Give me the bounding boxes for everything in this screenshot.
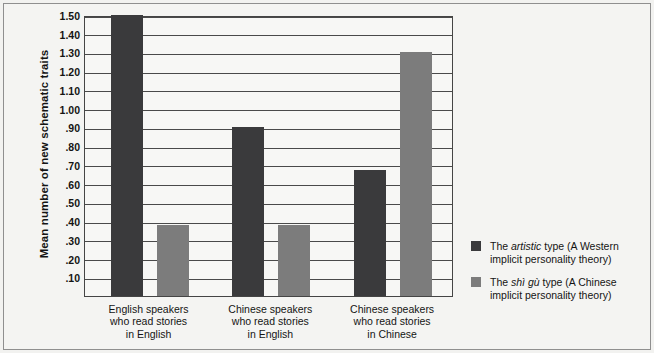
legend-swatch-icon (471, 277, 481, 287)
y-axis-tick-label: .10 (40, 272, 80, 284)
y-axis-tick-label: 1.50 (40, 10, 80, 22)
plot-area (84, 16, 453, 297)
y-axis-tick-label: 1.20 (40, 66, 80, 78)
y-axis-tick-label: 1.00 (40, 104, 80, 116)
y-axis-tick-label: 1.30 (40, 47, 80, 59)
y-axis-tick-label: .40 (40, 216, 80, 228)
category-label-line: Chinese speakers (210, 303, 330, 315)
bar (157, 225, 189, 296)
category-label-line: in English (210, 328, 330, 340)
category-label-line: in English (89, 328, 209, 340)
category-label-line: who read stories (332, 315, 452, 327)
category-label-line: English speakers (89, 303, 209, 315)
legend-swatch-icon (471, 241, 481, 251)
y-axis-tick-labels: 1.501.401.301.201.101.00.90.80.70.60.50.… (38, 16, 80, 297)
legend-item[interactable]: The shì gù type (A Chinese implicit pers… (471, 276, 647, 301)
chart-legend: The artistic type (A Western implicit pe… (471, 240, 647, 312)
y-axis-tick-label: .50 (40, 197, 80, 209)
chart-figure: Mean number of new schematic traits 1.50… (0, 0, 654, 353)
bar (232, 127, 264, 296)
legend-label: The artistic type (A Western implicit pe… (490, 240, 619, 265)
bar (354, 170, 386, 296)
y-axis-tick-label: 1.10 (40, 85, 80, 97)
category-label: Chinese speakerswho read storiesin Chine… (332, 303, 452, 340)
y-axis-tick-label: .90 (40, 122, 80, 134)
category-label-line: Chinese speakers (332, 303, 452, 315)
bar (400, 52, 432, 296)
category-label: Chinese speakerswho read storiesin Engli… (210, 303, 330, 340)
bar (278, 225, 310, 296)
category-label-line: who read stories (89, 315, 209, 327)
y-axis-tick-label: .70 (40, 160, 80, 172)
y-axis-tick-label: .60 (40, 179, 80, 191)
legend-label: The shì gù type (A Chinese implicit pers… (490, 276, 617, 301)
y-axis-tick-label: .30 (40, 235, 80, 247)
legend-item[interactable]: The artistic type (A Western implicit pe… (471, 240, 647, 265)
category-label: English speakerswho read storiesin Engli… (89, 303, 209, 340)
y-axis-tick-label: .80 (40, 141, 80, 153)
category-label-line: who read stories (210, 315, 330, 327)
y-axis-tick-label: 1.40 (40, 29, 80, 41)
y-axis-tick-label: .20 (40, 254, 80, 266)
bar (111, 15, 143, 296)
category-label-line: in Chinese (332, 328, 452, 340)
